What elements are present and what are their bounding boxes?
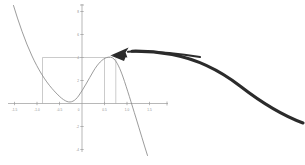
x-tick-label: 1.5 bbox=[147, 108, 152, 112]
figure-container: -1.5 -1.0 -0.5 0.5 1.0 1.5 0 8 6 4 2 -2 … bbox=[0, 0, 305, 165]
x-tick-label: -1.5 bbox=[12, 108, 18, 112]
y-tick-labels-group: 8 6 4 2 -2 -4 bbox=[76, 10, 79, 152]
origin-label: 0 bbox=[78, 108, 80, 112]
x-tick-label: 1.0 bbox=[125, 108, 130, 112]
y-tick-label: -4 bbox=[76, 148, 79, 152]
y-tick-label: -2 bbox=[76, 125, 79, 129]
y-tick-label: 8 bbox=[77, 10, 79, 14]
x-tick-label: -1.0 bbox=[34, 108, 40, 112]
x-tick-label: 0.5 bbox=[102, 108, 107, 112]
y-tick-label: 6 bbox=[77, 33, 79, 37]
annotation-arrow-body bbox=[132, 51, 303, 123]
y-tick-label: 2 bbox=[77, 79, 79, 83]
guide-lines-group bbox=[43, 58, 116, 104]
plot-canvas: -1.5 -1.0 -0.5 0.5 1.0 1.5 0 8 6 4 2 -2 … bbox=[0, 0, 305, 165]
axes-group bbox=[8, 4, 168, 152]
x-tick-label: -0.5 bbox=[57, 108, 63, 112]
annotation-arrow-group bbox=[110, 48, 303, 123]
